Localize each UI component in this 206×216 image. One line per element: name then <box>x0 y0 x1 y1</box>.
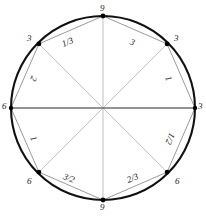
vertex-label-bottom: 9 <box>100 203 105 212</box>
vertex-dot-left <box>9 106 13 110</box>
vertex-dot-bottom-right <box>165 170 170 175</box>
spoke-diagonal-upper-right <box>103 44 167 108</box>
vertex-label-bottom-right: 6 <box>175 177 180 186</box>
vertex-dot-top-right <box>165 42 170 47</box>
vertex-dot-bottom-left <box>37 170 42 175</box>
spoke-diagonal-lower-right <box>103 108 167 172</box>
vertex-dot-top <box>101 14 106 19</box>
vertex-label-bottom-left: 6 <box>27 177 32 186</box>
vertex-label-right: 3 <box>198 102 203 111</box>
vertex-dot-right <box>193 106 197 110</box>
figure-canvas: 9 3 3 6 9 6 6 3 1/3 3 1 1/2 2/3 3/2 1 2 <box>0 0 206 216</box>
vertex-label-top: 9 <box>100 4 105 13</box>
spoke-diagonal-upper-left <box>39 44 103 108</box>
vertex-label-top-left: 3 <box>27 34 32 43</box>
vertex-label-top-right: 3 <box>174 34 179 43</box>
spoke-diagonal-lower-left <box>39 108 103 172</box>
vertex-dot-top-left <box>37 42 42 47</box>
vertex-label-left: 6 <box>2 102 7 111</box>
